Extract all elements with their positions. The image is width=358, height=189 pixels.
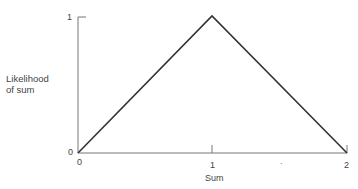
y-tick-label-0: 0: [68, 147, 73, 157]
y-tick-label-1: 1: [67, 12, 72, 22]
x-tick-label-1: 1: [210, 160, 215, 170]
y-axis-label: Likelihood of sum: [6, 73, 49, 95]
chart-plot-area: [0, 0, 358, 189]
y-axis-label-line1: Likelihood: [6, 73, 49, 84]
x-tick-label-2: 2: [344, 160, 349, 170]
y-axis-label-line2: of sum: [6, 84, 49, 95]
likelihood-line: [78, 16, 347, 153]
stray-dot: .: [280, 156, 283, 166]
x-tick-label-0: 0: [77, 157, 82, 167]
x-axis-label: Sum: [205, 173, 224, 183]
triangular-likelihood-chart: 1 0 0 1 2 . Sum Likelihood of sum: [0, 0, 358, 189]
